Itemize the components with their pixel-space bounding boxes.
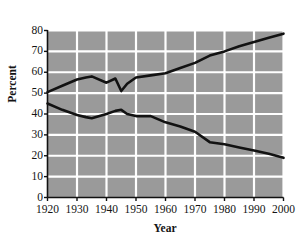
chart-figure: Percent Year 01020304050607080 192019301… — [0, 0, 300, 241]
plot-canvas — [0, 0, 300, 241]
